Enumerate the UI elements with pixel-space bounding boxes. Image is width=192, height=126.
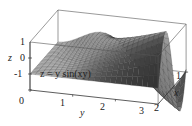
x-tick-1: 1 bbox=[176, 70, 181, 81]
y-tick-0: 0 bbox=[19, 95, 24, 106]
y-tick-3: 3 bbox=[139, 105, 144, 116]
y-tick-2: 2 bbox=[100, 101, 105, 112]
box-edge bbox=[58, 10, 186, 24]
equation-label: z = y sin(xy) bbox=[40, 68, 91, 80]
surface-plot: z 1 0 -1 0 1 2 3 y 1 2 x z = y sin(xy) bbox=[0, 0, 192, 126]
y-tick-1: 1 bbox=[60, 97, 65, 108]
y-axis bbox=[30, 90, 158, 104]
x-axis-label: x bbox=[173, 87, 179, 98]
z-tick-1: 1 bbox=[20, 36, 25, 47]
x-tick-2: 2 bbox=[154, 102, 159, 113]
y-axis-label: y bbox=[79, 107, 85, 118]
z-axis-label: z bbox=[7, 52, 12, 63]
box-edge bbox=[30, 10, 58, 42]
z-tick-neg1: -1 bbox=[14, 68, 22, 79]
z-tick-0: 0 bbox=[20, 52, 25, 63]
surface-patch bbox=[154, 62, 161, 75]
